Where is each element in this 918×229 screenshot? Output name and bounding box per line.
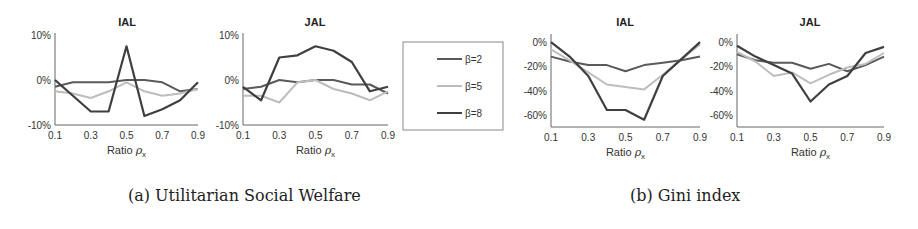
chart-3-ial: IAL0%-20%-40%-60%0.10.30.50.70.9Ratio ρx [524,16,708,161]
chart-title: JAL [305,16,326,28]
series-line-β-8 [243,46,388,100]
x-tick-label: 0.1 [544,132,558,143]
x-axis-label: Ratio ρx [606,146,645,161]
chart-title: IAL [616,16,634,28]
series-line-β-8 [551,42,700,120]
y-tick-label: -20% [710,61,733,72]
series-line-β-8 [55,46,198,116]
y-tick-label: 10% [31,30,51,41]
y-tick-label: 0% [719,37,734,48]
caption-b: (b) Gini index [630,186,740,205]
x-tick-label: 0.7 [656,132,670,143]
y-tick-label: 0% [37,75,52,86]
x-tick-label: 0.3 [767,132,781,143]
x-tick-label: 0.9 [693,132,707,143]
series-line-β-8 [737,46,884,102]
x-axis-label: Ratio ρx [107,144,146,159]
x-tick-label: 0.9 [191,130,205,141]
x-axis-label: Ratio ρx [791,146,830,161]
x-tick-label: 0.5 [804,132,818,143]
x-tick-label: 0.7 [345,130,359,141]
x-tick-label: 0.7 [840,132,854,143]
x-tick-label: 0.5 [619,132,633,143]
x-tick-label: 0.3 [84,130,98,141]
y-tick-label: -40% [710,86,733,97]
x-axis-label: Ratio ρx [296,144,335,159]
x-tick-label: 0.5 [120,130,134,141]
y-tick-label: -20% [524,61,547,72]
y-tick-label: 10% [219,30,239,41]
series-line-β-5 [551,45,700,90]
legend-label: β=8 [465,108,483,119]
x-tick-label: 0.9 [381,130,395,141]
x-tick-label: 0.1 [730,132,744,143]
caption-a: (a) Utilitarian Social Welfare [128,186,361,205]
chart-title: IAL [118,16,136,28]
x-tick-label: 0.1 [236,130,250,141]
x-tick-label: 0.3 [581,132,595,143]
x-tick-label: 0.9 [877,132,891,143]
x-tick-label: 0.5 [309,130,323,141]
y-tick-label: -60% [524,110,547,121]
chart-1-ial: IAL10%0%-10%0.10.30.50.70.9Ratio ρx [28,16,206,159]
legend-label: β=2 [465,54,483,65]
chart-title: JAL [800,16,821,28]
x-tick-label: 0.3 [272,130,286,141]
y-tick-label: 0% [225,75,240,86]
legend: β=2β=5β=8 [403,42,503,130]
y-tick-label: 0% [533,37,548,48]
x-tick-label: 0.7 [155,130,169,141]
y-tick-label: -60% [710,110,733,121]
x-tick-label: 0.1 [48,130,62,141]
chart-2-jal: JAL10%0%-10%0.10.30.50.70.9Ratio ρx [216,16,396,159]
y-tick-label: -40% [524,86,547,97]
chart-4-jal: JAL0%-20%-40%-60%0.10.30.50.70.9Ratio ρx [710,16,892,161]
legend-label: β=5 [465,81,483,92]
